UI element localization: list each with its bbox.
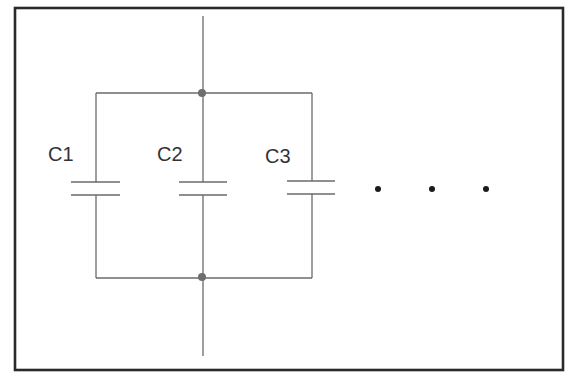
diagram-frame bbox=[15, 8, 563, 370]
parallel-capacitor-diagram: C1 C2 C3 bbox=[0, 0, 576, 379]
c1-label: C1 bbox=[48, 143, 74, 165]
capacitor-c1: C1 bbox=[48, 93, 120, 278]
ellipsis-continuation bbox=[375, 186, 489, 192]
capacitor-c3: C3 bbox=[265, 93, 335, 278]
ellipsis-dot bbox=[429, 186, 435, 192]
c2-label: C2 bbox=[157, 143, 183, 165]
junction-bottom-dot bbox=[198, 273, 206, 281]
ellipsis-dot bbox=[483, 186, 489, 192]
c3-label: C3 bbox=[265, 145, 291, 167]
ellipsis-dot bbox=[375, 186, 381, 192]
capacitor-c2: C2 bbox=[157, 93, 227, 278]
junction-top-dot bbox=[198, 89, 206, 97]
